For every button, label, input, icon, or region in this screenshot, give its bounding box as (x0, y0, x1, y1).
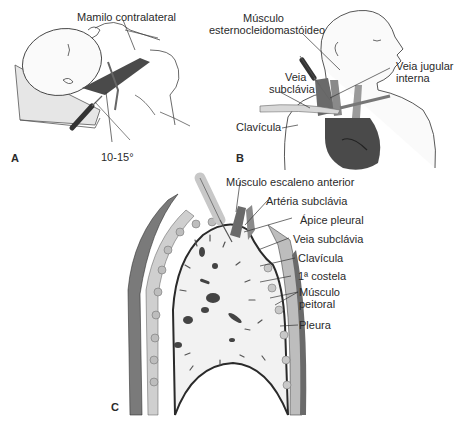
label-musculo-scm-line2: esternocleidomastóideo (209, 24, 325, 36)
label-clavicula: Clavícula (236, 121, 281, 133)
panel-letter-b: B (236, 152, 244, 164)
label-clavicula-c: Clavícula (298, 252, 343, 264)
label-apice-pleural: Ápice pleural (300, 214, 364, 226)
label-musculo-peitoral-line1: Músculo (299, 286, 340, 298)
panel-letter-a: A (11, 152, 19, 164)
label-musculo-escaleno-anterior: Músculo escaleno anterior (226, 176, 354, 188)
label-musculo-scm-line1: Músculo (243, 12, 284, 24)
panel-c-illustration (0, 170, 459, 425)
panel-a-illustration (0, 0, 230, 170)
label-veia-subclavia: Veia subclávia (293, 233, 363, 245)
label-primeira-costela: 1ª costela (298, 270, 346, 282)
label-angle: 10-15° (101, 151, 134, 163)
label-mamilo-contralateral: Mamilo contralateral (77, 11, 176, 23)
label-veia-jugular-interna-line2: interna (396, 72, 430, 84)
label-pleura: Pleura (299, 319, 331, 331)
label-veia-subclavia-line2: subclávia (269, 83, 315, 95)
panel-b: Músculo esternocleidomastóideo Veia jugu… (230, 0, 459, 170)
label-veia-jugular-interna-line1: Veia jugular (396, 60, 454, 72)
label-veia-subclavia-line1: Veia (285, 71, 306, 83)
panel-c: Músculo escaleno anterior Artéria subclá… (0, 170, 459, 425)
panel-letter-c: C (111, 401, 119, 413)
label-arteria-subclavia: Artéria subclávia (266, 195, 347, 207)
label-musculo-peitoral-line2: peitoral (299, 298, 335, 310)
panel-a: Mamilo contralateral 10-15° A (0, 0, 230, 170)
